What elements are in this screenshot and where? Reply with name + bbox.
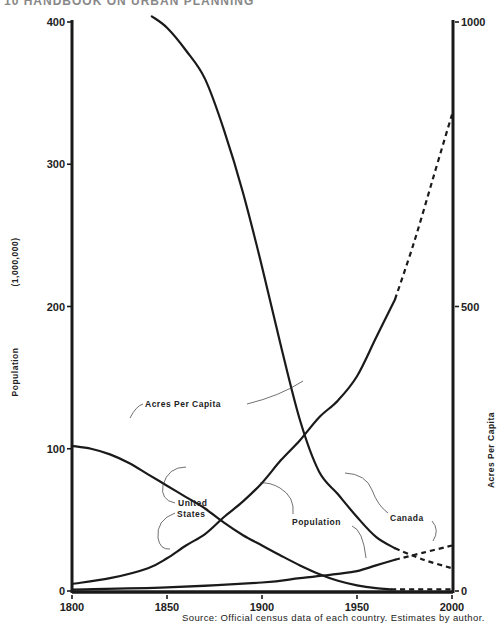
left-tick-label: 0 — [59, 585, 65, 597]
left-axis-unit: (1,000,000) — [10, 238, 20, 287]
annotation-population: Population — [292, 517, 341, 527]
canada-acres-per-capita-line — [72, 446, 391, 589]
annotation-acres-per-capita: Acres Per Capita — [145, 399, 221, 409]
annotation-canada: Canada — [390, 513, 424, 523]
left-tick-label: 300 — [47, 158, 65, 170]
population-acres-chart: 0100200300400050010001800185019001950200… — [0, 0, 502, 629]
left-axis-title: Population — [10, 348, 20, 397]
leader-us-pop — [158, 513, 175, 549]
leader-canada-acres — [345, 473, 388, 513]
right-axis-title: Acres Per Capita — [486, 412, 496, 488]
leader-pop-us — [260, 483, 293, 514]
leader-acres-canada — [130, 404, 143, 418]
annotation-united: United — [178, 498, 207, 508]
left-tick-label: 200 — [47, 301, 65, 313]
united-states-population-line — [72, 299, 395, 584]
tick-labels: 0100200300400050010001800185019001950200… — [10, 16, 496, 613]
x-tick-label: 1850 — [155, 601, 179, 613]
united-states-population-projection — [395, 115, 452, 300]
leader-pop-canada — [352, 526, 366, 558]
canada-population-line — [72, 560, 395, 590]
annotation-states: States — [177, 509, 206, 519]
x-tick-label: 1800 — [60, 601, 84, 613]
right-tick-label: 500 — [461, 301, 479, 313]
left-tick-label: 400 — [47, 16, 65, 28]
axes — [72, 20, 453, 593]
annotations: Acres Per CapitaUnitedStatesPopulationCa… — [130, 381, 436, 558]
left-tick-label: 100 — [47, 443, 65, 455]
series-lines — [72, 16, 452, 589]
right-tick-label: 0 — [461, 585, 467, 597]
leader-canada-pop — [432, 521, 436, 541]
source-note: Source: Official census data of each cou… — [182, 612, 485, 623]
right-tick-label: 1000 — [461, 16, 485, 28]
united-states-acres-per-capita-projection — [395, 548, 452, 568]
